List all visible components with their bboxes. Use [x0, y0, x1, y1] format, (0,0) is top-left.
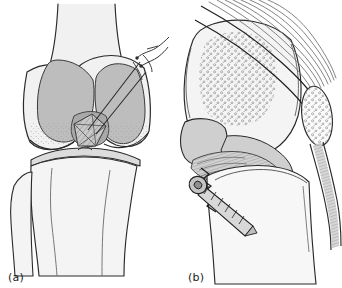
panel-b-caption: (b)	[188, 271, 204, 284]
tibia	[31, 157, 137, 276]
patella	[298, 84, 336, 148]
panel-b-lateral-view: (b)	[171, 0, 342, 288]
panel-a-caption: (a)	[8, 271, 24, 284]
fibula	[11, 172, 33, 276]
tibia-lateral	[201, 165, 316, 284]
panel-a-anteroposterior-view: (a)	[0, 0, 171, 288]
figure-container: (a)	[0, 0, 342, 288]
panel-b-illustration	[171, 0, 342, 288]
panel-a-illustration	[0, 0, 171, 288]
patellar-tendon	[310, 142, 341, 250]
